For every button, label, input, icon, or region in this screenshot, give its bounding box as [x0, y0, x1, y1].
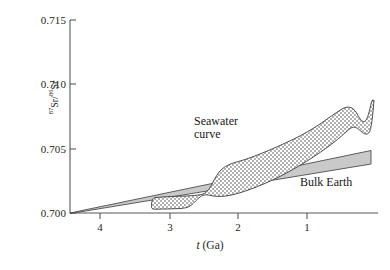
y-axis-title-slash: / [49, 96, 60, 99]
x-axis-title: t (Ga) [150, 239, 270, 251]
y-axis-ticks [70, 20, 76, 213]
seawater-curve-label-line2: curve [194, 128, 238, 141]
bulk-earth-label: Bulk Earth [300, 176, 352, 189]
y-tick-label-0710: 0.710 [24, 78, 66, 90]
x-axis-title-variable: t [196, 239, 199, 251]
seawater-curve-label: Seawater curve [194, 115, 238, 142]
y-axis-title-sr-2: Sr [49, 81, 60, 90]
x-tick-label-4: 4 [86, 221, 114, 233]
y-tick-label-0700: 0.700 [24, 207, 66, 219]
y-axis-title: 87Sr/86Sr [49, 60, 60, 136]
x-axis-title-unit: (Ga) [203, 239, 224, 251]
y-axis-title-sr-1: Sr [49, 99, 60, 108]
seawater-curve-label-line1: Seawater [194, 115, 238, 128]
x-tick-label-2: 2 [224, 221, 252, 233]
y-axis-title-sup-86: 86 [49, 90, 60, 97]
y-axis-title-sup-87: 87 [49, 108, 60, 115]
x-tick-label-1: 1 [293, 221, 321, 233]
y-tick-label-0705: 0.705 [24, 143, 66, 155]
y-tick-label-0715: 0.715 [24, 14, 66, 26]
x-tick-label-3: 3 [156, 221, 184, 233]
strontium-isotope-chart: 0.715 0.710 0.705 0.700 4 3 2 1 87Sr/86S… [0, 0, 390, 270]
x-axis-ticks [100, 213, 307, 219]
